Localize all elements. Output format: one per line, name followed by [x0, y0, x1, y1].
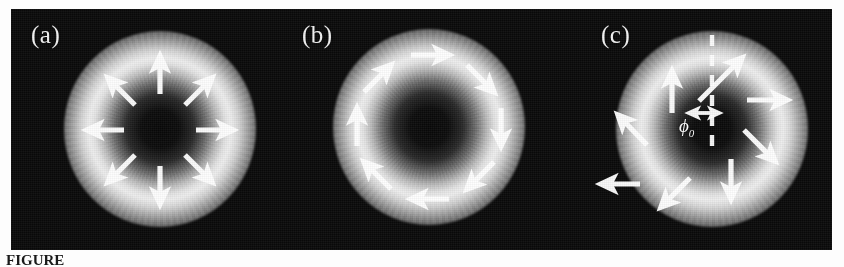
panel-b: (b) [291, 9, 571, 250]
beam-intensity-c [616, 31, 808, 227]
beam-intensity-a [64, 31, 256, 227]
panel-c: (c) [571, 9, 832, 250]
panel-b-label: (b) [302, 21, 333, 49]
figure-root: (a) [0, 0, 844, 267]
beam-intensity-b [333, 29, 525, 225]
panel-a: (a) [11, 9, 291, 250]
panel-c-label: (c) [601, 21, 630, 49]
panel-a-label: (a) [31, 21, 60, 49]
phi-subscript: 0 [689, 127, 695, 139]
figure-caption: FIGURE [6, 252, 64, 267]
photographic-plate: (a) [11, 9, 832, 250]
phi-symbol: ϕ [679, 115, 689, 136]
phi-zero-label: ϕ0 [679, 115, 694, 139]
